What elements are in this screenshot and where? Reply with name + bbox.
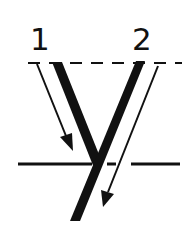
letter-stroke-1	[52, 62, 102, 168]
stroke-label-2: 2	[132, 21, 152, 57]
stroke-order-diagram: 1 2	[0, 0, 193, 236]
stroke-label-1: 1	[30, 21, 50, 57]
